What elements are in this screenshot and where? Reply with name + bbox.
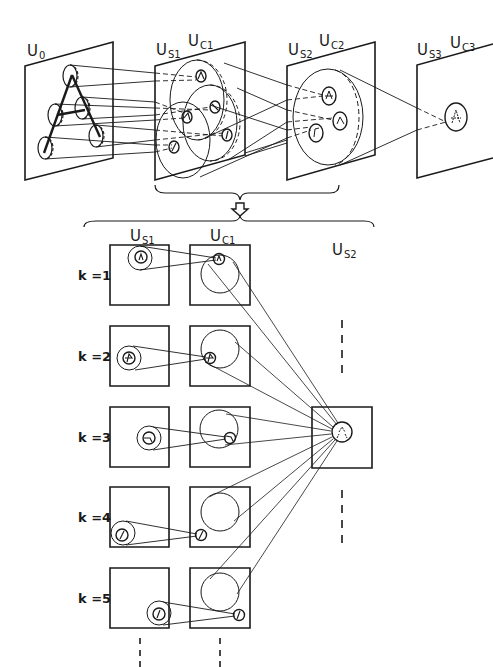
connections-uc1-to-us2 — [200, 63, 287, 177]
layer-us2-uc2-panel — [287, 42, 375, 180]
down-arrow-icon — [232, 203, 248, 216]
label-u0: U0 — [27, 44, 45, 59]
row-k3-cells — [137, 410, 238, 450]
row-label-k5: k =5 — [78, 591, 111, 606]
row-k2-cells — [117, 330, 239, 370]
column-header-uc1: UC1 — [210, 229, 235, 244]
neocognitron-diagram — [0, 0, 493, 667]
layer-us1-uc1-panel — [155, 42, 245, 180]
uc2-pooling-region — [293, 69, 363, 165]
us2-cell — [332, 422, 352, 442]
connections-uc1-to-us2-cell — [205, 262, 338, 594]
row-k5-cells — [147, 573, 245, 625]
column-header-us2: US2 — [332, 243, 357, 258]
continuation-dashes — [140, 320, 342, 667]
layer-u0-panel — [25, 42, 113, 180]
label-uc3-top: UC3 — [450, 36, 475, 51]
label-uc2-top: UC2 — [319, 34, 344, 49]
row-label-k1: k =1 — [78, 268, 111, 283]
layer-us3-uc3-panel — [417, 44, 493, 178]
row-k1-cells — [128, 246, 239, 293]
us1-planes — [110, 245, 169, 628]
label-uc1-top: UC1 — [188, 34, 213, 49]
row-k4-cells — [111, 493, 239, 545]
row-label-k4: k =4 — [78, 510, 111, 525]
row-label-k2: k =2 — [78, 349, 111, 364]
label-us1-top: US1 — [156, 43, 181, 58]
us3-feature-cell — [445, 103, 467, 131]
top-brace — [155, 185, 339, 200]
row-label-k3: k =3 — [78, 430, 111, 445]
column-header-us1: US1 — [130, 229, 155, 244]
us2-feature-cells — [309, 87, 347, 142]
label-us3-top: US3 — [417, 43, 442, 58]
bottom-brace — [84, 216, 374, 227]
label-us2-top: US2 — [288, 43, 313, 58]
